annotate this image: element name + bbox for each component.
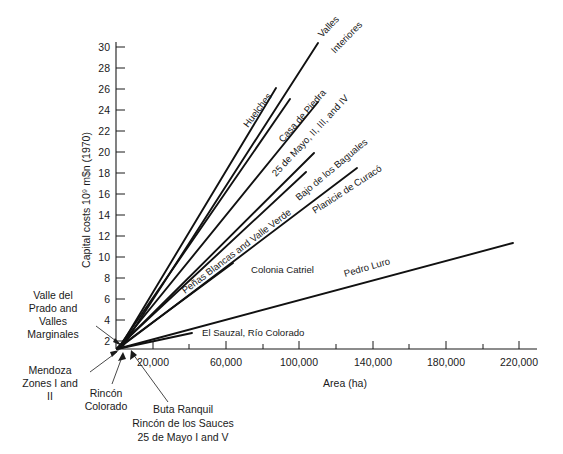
annotations-group: Valle del Prado and Valles Marginales Me… bbox=[22, 289, 234, 443]
y-tick-label: 16 bbox=[98, 188, 110, 200]
y-tick-label: 28 bbox=[98, 62, 110, 74]
annotation-line: 25 de Mayo I and V bbox=[137, 431, 228, 443]
y-tick-label: 4 bbox=[104, 314, 110, 326]
y-tick-label: 10 bbox=[98, 251, 110, 263]
annotation-line: Zones I and bbox=[22, 377, 78, 389]
x-tick-label: 180,000 bbox=[427, 356, 465, 368]
x-axis-ticks bbox=[153, 341, 519, 349]
y-tick-label: 20 bbox=[98, 146, 110, 158]
x-tick-label: 60,000 bbox=[210, 356, 242, 368]
series-label-valles-interiores-line1: Valles bbox=[316, 13, 342, 39]
series-lines-group bbox=[117, 43, 513, 349]
y-tick-label: 14 bbox=[98, 209, 110, 221]
annotation-line: Prado and bbox=[29, 302, 78, 314]
annotation-line: Colorado bbox=[85, 400, 128, 412]
y-tick-label: 22 bbox=[98, 125, 110, 137]
x-axis-tick-labels: 20,000 60,000 100,000 140,000 180,000 22… bbox=[137, 356, 538, 368]
y-axis-tick-labels: 30 28 26 24 22 20 18 16 14 12 10 8 6 4 2 bbox=[98, 41, 110, 347]
series-label-colonia-catriel: Colonia Catriel bbox=[251, 264, 314, 275]
series-line-valles-interiores bbox=[123, 43, 318, 346]
series-line-pedro-luro bbox=[117, 243, 513, 349]
y-tick-label: 24 bbox=[98, 104, 110, 116]
leader-arrow bbox=[118, 352, 126, 361]
chart-container: 30 28 26 24 22 20 18 16 14 12 10 8 6 4 2… bbox=[0, 0, 563, 454]
annotation-line: Mendoza bbox=[28, 364, 71, 376]
y-tick-label: 6 bbox=[104, 293, 110, 305]
y-tick-label: 30 bbox=[98, 41, 110, 53]
annotation-line: Rincón de los Sauces bbox=[132, 417, 234, 429]
y-tick-label: 2 bbox=[104, 335, 110, 347]
x-axis-title: Area (ha) bbox=[323, 377, 367, 389]
y-tick-label: 18 bbox=[98, 167, 110, 179]
leader-line bbox=[112, 357, 122, 384]
x-tick-label: 140,000 bbox=[354, 356, 392, 368]
annotation-line: Valles bbox=[39, 315, 67, 327]
y-tick-label: 12 bbox=[98, 230, 110, 242]
series-label-huelches: Huelches bbox=[241, 90, 274, 129]
leader-arrow bbox=[113, 338, 122, 346]
series-line-penas-blancas-valle-verde bbox=[117, 172, 306, 348]
annotation-line: Marginales bbox=[27, 328, 78, 340]
annotation-line: Rincón bbox=[90, 387, 123, 399]
capital-costs-vs-area-chart: 30 28 26 24 22 20 18 16 14 12 10 8 6 4 2… bbox=[0, 0, 563, 454]
series-labels-group: Valles Interiores Huelches Casa de Piedr… bbox=[180, 13, 392, 338]
y-axis-ticks bbox=[116, 47, 125, 341]
series-label-pedro-luro: Pedro Luro bbox=[343, 255, 392, 279]
series-line-huelches bbox=[120, 88, 276, 347]
x-tick-label: 100,000 bbox=[280, 356, 318, 368]
annotation-line: II bbox=[47, 390, 53, 402]
x-tick-label: 220,000 bbox=[500, 356, 538, 368]
y-axis-title: Capital costs 10⁹ m$n (1970) bbox=[80, 132, 92, 268]
annotation-rincon-colorado: Rincón Colorado bbox=[85, 352, 128, 412]
y-tick-label: 8 bbox=[104, 272, 110, 284]
series-label-el-sauzal-rio-colorado: El Sauzal, Río Colorado bbox=[202, 327, 304, 338]
annotation-line: Valle del bbox=[33, 289, 73, 301]
y-tick-label: 26 bbox=[98, 83, 110, 95]
annotation-line: Buta Ranquil bbox=[153, 403, 213, 415]
